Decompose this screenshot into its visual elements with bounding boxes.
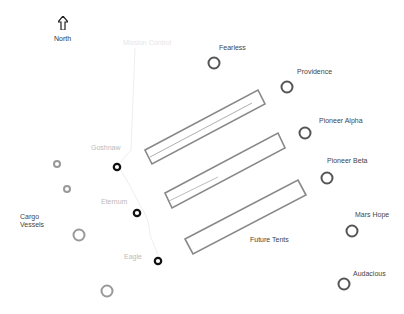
label-goshnaw: Goshnaw [91, 144, 121, 152]
label-eagle: Eagle [124, 253, 142, 261]
site-mars-hope[interactable] [347, 226, 358, 237]
site-audacious[interactable] [339, 279, 350, 290]
cargo-vessel-4[interactable] [102, 286, 113, 297]
cargo-vessel-3[interactable] [74, 230, 85, 241]
site-eternum[interactable] [134, 210, 140, 216]
label-audacious: Audacious [353, 270, 386, 278]
site-pioneer-alpha[interactable] [300, 128, 311, 139]
label-pioneer-alpha: Pioneer Alpha [319, 117, 363, 125]
trail-path [118, 48, 158, 255]
label-cargo-vessels: Cargo Vessels [20, 213, 44, 230]
label-future-tents: Future Tents [250, 236, 289, 244]
tent-divider-1 [150, 103, 252, 157]
north-label: North [54, 35, 71, 42]
tent-row-1[interactable] [145, 90, 265, 164]
cargo-label-line2: Vessels [20, 221, 44, 228]
site-fearless[interactable] [209, 58, 220, 69]
label-eternum: Eternum [101, 198, 127, 206]
label-mars-hope: Mars Hope [355, 211, 389, 219]
label-pioneer-beta: Pioneer Beta [327, 157, 367, 165]
cargo-vessel-2[interactable] [64, 186, 70, 192]
compass: North [54, 16, 71, 42]
cargo-label-line1: Cargo [20, 213, 39, 220]
site-goshnaw[interactable] [114, 164, 120, 170]
label-providence: Providence [297, 68, 332, 76]
map-canvas: North Mission Control Fearless Providenc… [0, 0, 404, 314]
label-fearless: Fearless [219, 44, 246, 52]
cargo-vessel-1[interactable] [54, 161, 60, 167]
site-providence[interactable] [282, 82, 293, 93]
site-pioneer-beta[interactable] [322, 173, 333, 184]
site-eagle[interactable] [155, 258, 161, 264]
north-arrow-icon [58, 16, 68, 30]
path-label: Mission Control [123, 39, 171, 47]
